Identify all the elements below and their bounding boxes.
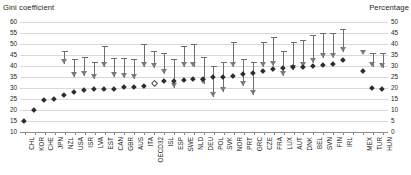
x-axis-tick: [353, 132, 354, 135]
x-axis-tick: [124, 132, 125, 135]
triangle-marker: [181, 62, 187, 67]
diamond-marker: [32, 108, 37, 113]
triangle-marker: [220, 87, 226, 92]
x-axis-label: NLD: [197, 137, 204, 150]
x-axis-label: ITA: [147, 137, 154, 146]
x-axis-tick: [264, 132, 265, 135]
triangle-marker: [171, 83, 177, 88]
x-axis-label: LUX: [286, 137, 293, 149]
x-axis-tick: [174, 132, 175, 135]
range-cap: [271, 37, 277, 38]
x-axis-tick: [244, 132, 245, 135]
range-cap: [380, 53, 386, 54]
diamond-marker: [101, 87, 106, 92]
x-axis-label: ISL: [167, 137, 174, 147]
right-axis-tick-label: 15: [391, 96, 398, 102]
diamond-marker: [131, 84, 136, 89]
range-cap: [131, 59, 137, 60]
diamond-marker: [71, 90, 76, 95]
x-axis-tick: [333, 132, 334, 135]
range-cap: [62, 51, 68, 52]
triangle-marker: [161, 69, 167, 74]
diamond-marker: [171, 78, 176, 83]
right-axis-tick-label: 0: [391, 129, 395, 135]
range-cap: [141, 44, 147, 45]
right-axis-tick-label: 25: [391, 74, 398, 80]
x-axis-tick: [134, 132, 135, 135]
diamond-marker: [151, 80, 158, 87]
x-axis-label: MEX: [366, 137, 373, 151]
triangle-marker: [360, 50, 366, 55]
x-axis-label: TUR: [376, 137, 383, 150]
range-cap: [300, 40, 306, 41]
triangle-marker: [81, 71, 87, 76]
chart-container: Gini coefficient Percentage 605550454035…: [0, 0, 411, 175]
x-axis-label: CAN: [117, 137, 124, 150]
x-axis-tick: [184, 132, 185, 135]
x-axis-label: ESP: [177, 137, 184, 150]
x-axis-tick: [65, 132, 66, 135]
diamond-marker: [280, 65, 285, 70]
range-cap: [201, 57, 207, 58]
triangle-marker: [101, 62, 107, 67]
diamond-marker: [240, 71, 245, 76]
range-cap: [191, 44, 197, 45]
x-axis-label: CHE: [47, 137, 54, 150]
left-axis-tick-label: 45: [10, 52, 17, 58]
diamond-marker: [41, 97, 46, 102]
x-axis-tick: [373, 132, 374, 135]
left-axis-tick-label: 50: [10, 41, 17, 47]
range-cap: [221, 62, 227, 63]
x-axis-label: CHL: [28, 137, 35, 150]
x-axis-label: OECD32: [157, 137, 164, 163]
x-axis-label: KOR: [38, 137, 45, 151]
x-axis-tick: [214, 132, 215, 135]
triangle-marker: [61, 59, 67, 64]
x-axis-tick: [204, 132, 205, 135]
triangle-marker: [340, 47, 346, 52]
diamond-marker: [320, 62, 325, 67]
right-axis-tick-label: 10: [391, 107, 398, 113]
triangle-marker: [270, 61, 276, 66]
x-axis-tick: [234, 132, 235, 135]
x-axis-tick: [194, 132, 195, 135]
x-axis-label: EST: [107, 137, 114, 149]
diamond-marker: [22, 118, 27, 123]
x-axis-label: SVN: [326, 137, 333, 150]
x-axis-label: FRA: [276, 137, 283, 150]
x-axis-tick: [95, 132, 96, 135]
right-axis-tick-label: 30: [391, 63, 398, 69]
diamond-marker: [360, 68, 365, 73]
range-cap: [330, 33, 336, 34]
x-axis-label: SVK: [226, 137, 233, 150]
range-cap: [291, 42, 297, 43]
x-axis-tick: [55, 132, 56, 135]
diamond-marker: [91, 87, 96, 92]
x-axis-tick: [154, 132, 155, 135]
x-axis-tick: [224, 132, 225, 135]
triangle-marker: [210, 92, 216, 97]
diamond-marker: [250, 70, 255, 75]
triangle-marker: [151, 63, 157, 68]
range-cap: [151, 51, 157, 52]
left-axis-title: Gini coefficient: [3, 3, 54, 12]
diamond-marker: [81, 87, 86, 92]
triangle-marker: [260, 62, 266, 67]
range-cap: [320, 33, 326, 34]
right-axis-tick-label: 20: [391, 85, 398, 91]
range-cap: [281, 51, 287, 52]
range-cap: [82, 57, 88, 58]
x-axis-tick: [144, 132, 145, 135]
x-axis-tick: [25, 132, 26, 135]
left-axis-tick-label: 35: [10, 74, 17, 80]
x-axis-tick: [363, 132, 364, 135]
x-axis-label: PRT: [246, 137, 253, 150]
diamond-marker: [51, 96, 56, 101]
x-axis-tick: [105, 132, 106, 135]
x-axis-label: GRC: [256, 137, 263, 151]
x-axis-label: NOR: [236, 137, 243, 151]
x-axis-label: AUT: [296, 137, 303, 150]
triangle-marker: [131, 74, 137, 79]
x-axis-label: ISR: [87, 137, 94, 148]
x-axis-tick: [75, 132, 76, 135]
